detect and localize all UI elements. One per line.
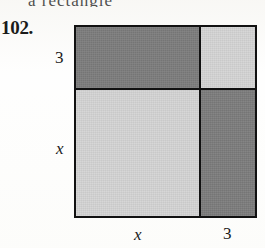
area-cell-bottom-left <box>76 90 201 216</box>
column-dimension-label-left: x <box>134 226 142 243</box>
figure-page: a rectangle 102. 3 x x 3 <box>0 0 265 248</box>
area-cell-top-left <box>76 27 201 90</box>
area-cell-top-right <box>201 27 255 90</box>
row-dimension-label-bottom: x <box>56 140 64 157</box>
row-dimension-label-top: 3 <box>55 49 64 66</box>
bleed-through-text: a rectangle <box>28 0 228 7</box>
area-model-diagram <box>74 25 257 218</box>
area-cell-bottom-right <box>201 90 255 216</box>
exercise-number-label: 102. <box>1 18 33 37</box>
column-dimension-label-right: 3 <box>223 225 232 242</box>
